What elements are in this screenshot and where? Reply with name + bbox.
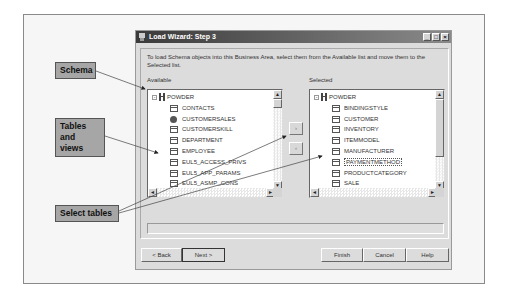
horizontal-scrollbar[interactable]: ◄ ► (148, 188, 275, 197)
tree-root[interactable]: - POWDER (312, 92, 407, 103)
scroll-corner (273, 188, 282, 197)
table-icon (332, 159, 340, 166)
table-icon (170, 105, 178, 112)
table-icon (332, 137, 340, 144)
collapse-icon[interactable]: - (314, 95, 319, 100)
move-right-button[interactable]: › (289, 122, 303, 135)
list-item[interactable]: BINDINGSTYLE (312, 103, 407, 114)
table-icon (170, 126, 178, 133)
table-icon (170, 180, 178, 187)
schema-icon (321, 93, 327, 101)
back-button[interactable]: < Back (141, 248, 182, 262)
table-icon (170, 170, 178, 177)
table-icon (332, 180, 340, 187)
title-bar[interactable]: Load Wizard: Step 3 _ □ × (136, 31, 451, 43)
next-button[interactable]: Next > (182, 248, 225, 262)
scroll-left-icon[interactable]: ◄ (148, 188, 157, 197)
window-title: Load Wizard: Step 3 (149, 33, 216, 40)
scroll-up-icon[interactable]: ▲ (273, 90, 282, 99)
scroll-thumb[interactable] (273, 99, 282, 108)
available-label: Available (147, 77, 171, 83)
list-item[interactable]: DEPARTMENT (150, 135, 246, 146)
tree-root[interactable]: - POWDER (150, 92, 246, 103)
selected-label: Selected (309, 77, 332, 83)
root-label: POWDER (167, 94, 194, 100)
list-item[interactable]: MANUFACTURER (312, 146, 407, 157)
collapse-icon[interactable]: - (152, 95, 157, 100)
schema-icon (159, 93, 165, 101)
load-wizard-dialog: Load Wizard: Step 3 _ □ × To load Schema… (135, 30, 452, 270)
table-icon (170, 159, 178, 166)
progress-bar (147, 223, 444, 234)
list-item[interactable]: PRODUCTCATEGORY (312, 168, 407, 179)
cancel-button[interactable]: Cancel (363, 248, 406, 262)
table-icon (170, 148, 178, 155)
table-icon (332, 105, 340, 112)
list-item[interactable]: CONTACTS (150, 103, 246, 114)
callout-schema: Schema (55, 62, 96, 79)
table-icon (332, 116, 340, 123)
app-icon (138, 33, 146, 41)
table-icon (170, 137, 178, 144)
move-left-button[interactable]: ‹ (289, 142, 303, 155)
view-icon (170, 116, 177, 123)
available-tree: - POWDER CONTACTS CUSTOMERSALES CUSTOMER… (150, 92, 246, 189)
available-list[interactable]: - POWDER CONTACTS CUSTOMERSALES CUSTOMER… (147, 89, 283, 198)
list-item[interactable]: CUSTOMERSKILL (150, 124, 246, 135)
help-button[interactable]: Help (406, 248, 449, 262)
maximize-button[interactable]: □ (432, 33, 440, 41)
list-item[interactable]: CUSTOMER (312, 114, 407, 125)
list-item[interactable]: ITEMMODEL (312, 135, 407, 146)
vertical-scrollbar[interactable]: ▲ ▼ (435, 90, 444, 190)
callout-select-tables: Select tables (55, 205, 119, 222)
finish-button[interactable]: Finish (321, 248, 363, 262)
scroll-thumb[interactable] (435, 99, 444, 157)
list-item[interactable]: INVENTORY (312, 124, 407, 135)
list-item[interactable]: EMPLOYEE (150, 146, 246, 157)
scroll-corner (435, 188, 444, 197)
table-icon (332, 126, 340, 133)
minimize-button[interactable]: _ (423, 33, 431, 41)
horizontal-scrollbar[interactable]: ◄ ► (310, 188, 437, 197)
scroll-left-icon[interactable]: ◄ (310, 188, 319, 197)
scroll-up-icon[interactable]: ▲ (435, 90, 444, 99)
table-icon (332, 148, 340, 155)
callout-tables-views: Tables and views (55, 118, 105, 157)
intro-text: To load Schema objects into this Busines… (147, 53, 442, 69)
table-icon (332, 170, 340, 177)
close-button[interactable]: × (441, 33, 449, 41)
list-item[interactable]: CUSTOMERSALES (150, 114, 246, 125)
root-label: POWDER (329, 94, 356, 100)
selected-list[interactable]: - POWDER BINDINGSTYLE CUSTOMER INVENTORY… (309, 89, 445, 198)
selected-tree: - POWDER BINDINGSTYLE CUSTOMER INVENTORY… (312, 92, 407, 189)
list-item-focused[interactable]: PAYMENTMETHOD (312, 157, 407, 168)
list-item[interactable]: EUL5_APP_PARAMS (150, 168, 246, 179)
list-item[interactable]: EUL5_ACCESS_PRIVS (150, 157, 246, 168)
vertical-scrollbar[interactable]: ▲ ▼ (273, 90, 282, 190)
